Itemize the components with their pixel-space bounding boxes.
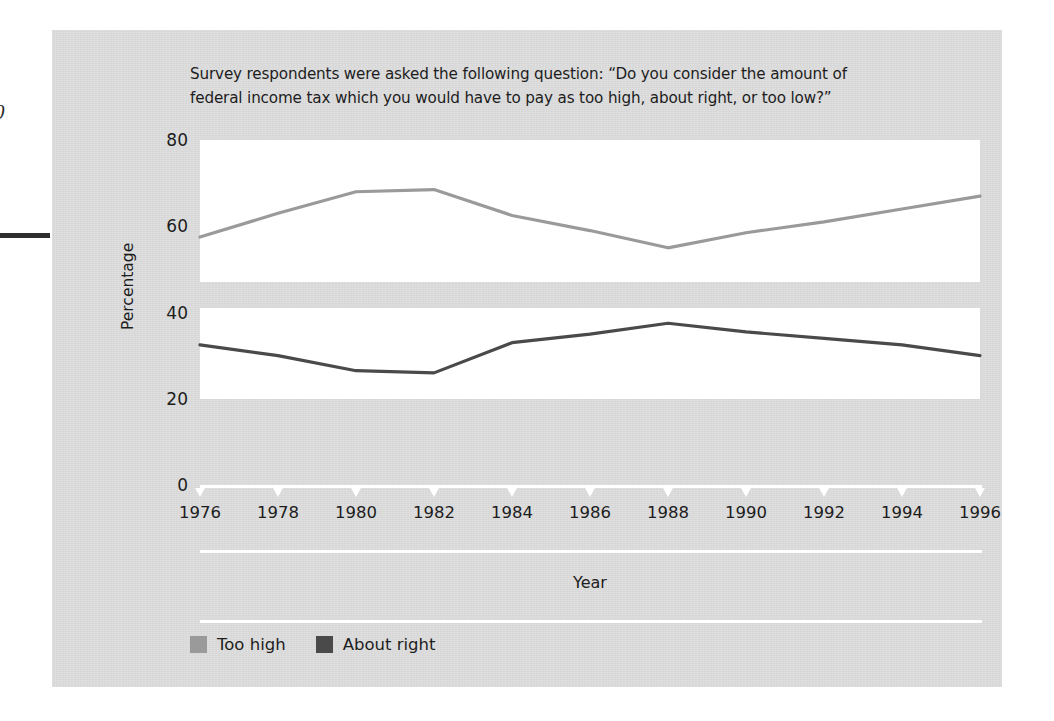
y-axis-title: Percentage (119, 243, 137, 330)
figure-question-text: Survey respondents were asked the follow… (190, 62, 890, 110)
x-tick-label: 1978 (257, 503, 299, 522)
x-tick-label: 1988 (647, 503, 689, 522)
x-tick-mark (351, 488, 361, 497)
legend-item: Too high (190, 635, 286, 654)
x-tick-mark (507, 488, 517, 497)
x-axis-title: Year (200, 573, 980, 592)
rule-below-year-label (200, 620, 982, 623)
margin-folio-fragment: 0 (0, 100, 5, 125)
x-tick-mark (897, 488, 907, 497)
x-tick-label: 1986 (569, 503, 611, 522)
margin-rule (0, 233, 50, 238)
x-tick-mark (195, 488, 205, 497)
x-tick-label: 1994 (881, 503, 923, 522)
y-tick-label: 0 (177, 475, 188, 495)
x-tick-label: 1990 (725, 503, 767, 522)
x-tick-label: 1996 (959, 503, 1001, 522)
y-tick-label: 80 (166, 130, 188, 150)
y-tick-label: 60 (166, 216, 188, 236)
x-tick-mark (429, 488, 439, 497)
series-line-about-right (200, 323, 980, 373)
chart-legend: Too highAbout right (190, 635, 435, 654)
y-tick-label: 20 (166, 389, 188, 409)
x-axis-ticks: 1976197819801982198419861988199019921994… (200, 485, 980, 545)
x-tick-label: 1980 (335, 503, 377, 522)
x-tick-mark (741, 488, 751, 497)
x-tick-label: 1984 (491, 503, 533, 522)
plot-area: 020406080 (200, 140, 980, 485)
x-tick-mark (975, 488, 985, 497)
x-tick-label: 1992 (803, 503, 845, 522)
legend-label: About right (343, 635, 436, 654)
x-tick-mark (585, 488, 595, 497)
legend-item: About right (316, 635, 436, 654)
y-tick-label: 40 (166, 303, 188, 323)
figure-panel: Survey respondents were asked the follow… (52, 30, 1002, 687)
x-tick-label: 1976 (179, 503, 221, 522)
x-tick-label: 1982 (413, 503, 455, 522)
legend-swatch-too-high (190, 636, 207, 653)
x-tick-mark (663, 488, 673, 497)
rule-above-year-label (200, 550, 982, 553)
legend-label: Too high (217, 635, 286, 654)
x-tick-mark (273, 488, 283, 497)
legend-swatch-about-right (316, 636, 333, 653)
plot-lines (200, 140, 980, 485)
x-tick-mark (819, 488, 829, 497)
series-line-too-high (200, 190, 980, 248)
